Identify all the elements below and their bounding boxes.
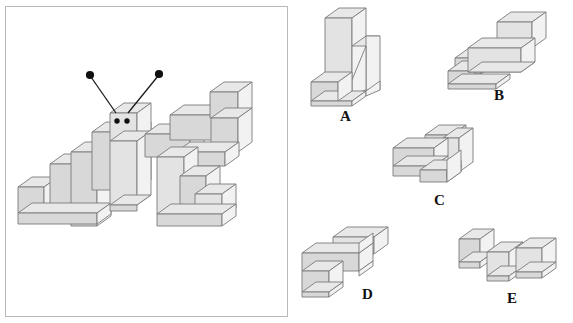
block-ground-strip-left [18, 203, 111, 224]
option-label-c: C [434, 193, 445, 208]
eye-right-icon [124, 118, 129, 123]
antenna-left [86, 71, 116, 113]
antenna-left-tip-dot [86, 71, 94, 79]
eye-left-icon [114, 118, 119, 123]
option-c-figure[interactable] [393, 125, 473, 182]
option-b-figure[interactable] [448, 12, 546, 89]
stimulus-caterpillar [18, 70, 252, 226]
block-ground-strip-right [157, 204, 236, 226]
puzzle-page: A B C D E [0, 0, 573, 323]
option-label-e: E [507, 291, 517, 306]
option-label-a: A [340, 109, 351, 124]
option-a-figure[interactable] [311, 8, 380, 106]
block-figure-artwork [0, 0, 573, 323]
option-label-d: D [362, 287, 373, 302]
option-e-figure[interactable] [459, 229, 556, 281]
antenna-right-tip-dot [155, 70, 163, 78]
option-label-b: B [494, 88, 504, 103]
option-d-figure[interactable] [302, 227, 388, 297]
